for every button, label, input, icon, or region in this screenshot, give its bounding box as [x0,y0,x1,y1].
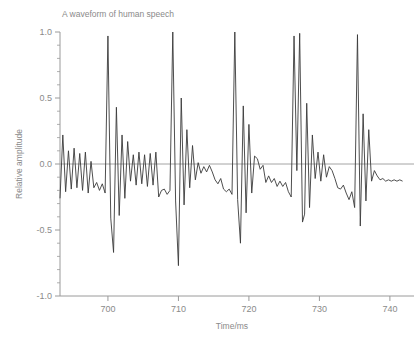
y-tick-label--0.5: -0.5 [36,225,52,235]
chart-title: A waveform of human speech [62,9,174,19]
x-tick-label-700: 700 [100,304,115,314]
x-axis-title: Time/ms [216,321,248,331]
x-tick-label-710: 710 [171,304,186,314]
waveform-chart-svg: -1.0-0.50.00.51.0700710720730740A wavefo… [0,0,418,340]
y-axis-title: Relative amplitude [14,129,24,199]
x-tick-label-740: 740 [382,304,397,314]
waveform-line [60,32,403,266]
waveform-figure: -1.0-0.50.00.51.0700710720730740A wavefo… [0,0,418,340]
x-tick-label-730: 730 [312,304,327,314]
x-tick-label-720: 720 [241,304,256,314]
y-tick-label-1.0: 1.0 [39,27,52,37]
y-tick-label-0.5: 0.5 [39,93,52,103]
y-tick-label--1.0: -1.0 [36,291,52,301]
y-tick-label-0.0: 0.0 [39,159,52,169]
